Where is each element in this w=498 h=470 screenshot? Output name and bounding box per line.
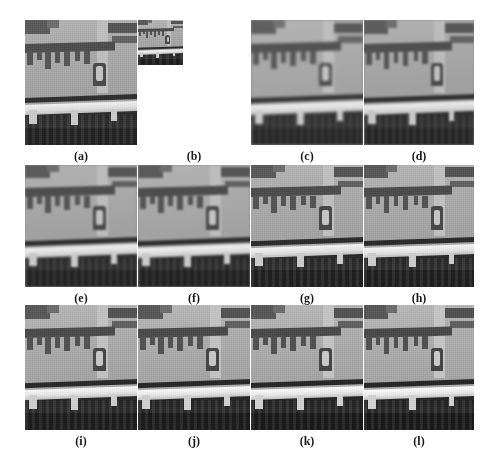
figure-row-2: (e) (f) <box>0 165 498 310</box>
panel-image-b[interactable] <box>138 20 183 65</box>
panel-caption-f: (f) <box>138 292 250 304</box>
panel-image-l[interactable] <box>364 305 474 430</box>
panel-caption-a: (a) <box>25 150 137 162</box>
panel-caption-g: (g) <box>251 292 363 304</box>
panel-image-g[interactable] <box>251 165 363 287</box>
panel-image-h[interactable] <box>364 165 474 287</box>
panel-image-d[interactable] <box>364 20 474 145</box>
panel-caption-l: (l) <box>364 435 474 447</box>
panel-caption-c: (c) <box>251 150 363 162</box>
figure-panel-grid: (a) (b) <box>0 0 498 470</box>
panel-caption-k: (k) <box>251 435 363 447</box>
panel-caption-d: (d) <box>364 150 474 162</box>
panel-image-j[interactable] <box>138 305 250 430</box>
panel-caption-b: (b) <box>138 150 250 162</box>
panel-caption-i: (i) <box>25 435 137 447</box>
panel-caption-h: (h) <box>364 292 474 304</box>
panel-caption-e: (e) <box>25 292 137 304</box>
figure-row-3: (i) (j) <box>0 305 498 455</box>
panel-image-k[interactable] <box>251 305 363 430</box>
panel-image-i[interactable] <box>25 305 137 430</box>
panel-caption-j: (j) <box>138 435 250 447</box>
panel-image-f[interactable] <box>138 165 250 287</box>
panel-image-e[interactable] <box>25 165 137 287</box>
figure-row-1: (a) (b) <box>0 20 498 165</box>
panel-image-a[interactable] <box>25 20 137 145</box>
panel-image-c[interactable] <box>251 20 363 145</box>
